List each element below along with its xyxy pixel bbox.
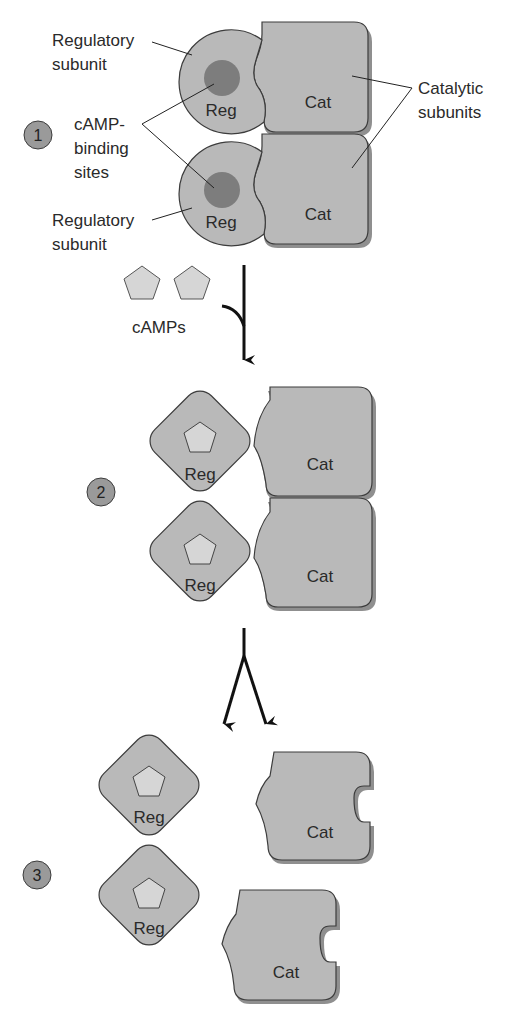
step-2: Cat Cat Reg Reg 2 (87, 384, 376, 611)
label-regulatory-top-2: subunit (52, 55, 107, 74)
step-3: Reg Reg Cat Cat 3 (23, 728, 374, 1004)
regulatory-subunit-1b: Reg (179, 142, 265, 246)
catalytic-subunit-1a: Cat (254, 22, 372, 136)
arrow-step2-to-3 (224, 628, 266, 724)
reg-label: Reg (133, 919, 164, 938)
regulatory-subunit-3a: Reg (92, 728, 205, 841)
label-binding-2: binding (74, 139, 129, 158)
step-1-badge: 1 (24, 121, 52, 149)
reg-label: Reg (205, 101, 236, 120)
svg-text:1: 1 (34, 127, 43, 144)
regulatory-subunit-2b: Reg (143, 494, 256, 607)
camp-pentagon-icon (124, 266, 160, 299)
cat-label: Cat (307, 823, 334, 842)
cat-label: Cat (273, 963, 300, 982)
camp-binding-site (204, 172, 240, 208)
svg-text:2: 2 (97, 484, 106, 501)
reg-label: Reg (184, 576, 215, 595)
svg-text:3: 3 (33, 867, 42, 884)
regulatory-subunit-3b: Reg (92, 838, 205, 951)
label-regulatory-bottom-1: Regulatory (52, 211, 135, 230)
reg-label: Reg (184, 465, 215, 484)
label-regulatory-top-1: Regulatory (52, 31, 135, 50)
label-binding-1: cAMP- (74, 115, 125, 134)
cat-label: Cat (307, 567, 334, 586)
reg-label: Reg (205, 213, 236, 232)
camp-molecules: cAMPs (124, 266, 210, 337)
catalytic-subunit-2b: Cat (254, 498, 376, 611)
camp-label: cAMPs (132, 318, 186, 337)
arrow-step1-to-2 (222, 265, 244, 360)
label-catalytic-1: Catalytic (418, 79, 484, 98)
camp-pentagon-icon (174, 266, 210, 299)
catalytic-subunit-3b-free: Cat (222, 890, 340, 1004)
camp-binding-site (204, 60, 240, 96)
label-catalytic-2: subunits (418, 103, 481, 122)
cat-label: Cat (305, 93, 332, 112)
step-3-badge: 3 (23, 861, 51, 889)
reg-label: Reg (133, 808, 164, 827)
catalytic-subunit-3a-free: Cat (256, 752, 374, 864)
catalytic-subunit-2a: Cat (254, 387, 376, 500)
label-regulatory-bottom-2: subunit (52, 235, 107, 254)
label-binding-3: sites (74, 163, 109, 182)
step-1: Cat Cat Reg Reg Regulatory subunit cAMP-… (24, 22, 484, 254)
cat-label: Cat (307, 455, 334, 474)
regulatory-subunit-1a: Reg (179, 30, 265, 134)
step-2-badge: 2 (87, 478, 115, 506)
pka-activation-diagram: Cat Cat Reg Reg Regulatory subunit cAMP-… (0, 0, 527, 1020)
cat-label: Cat (305, 205, 332, 224)
catalytic-subunit-1b: Cat (254, 134, 372, 248)
leader-line (152, 42, 192, 55)
regulatory-subunit-2a: Reg (143, 384, 256, 497)
